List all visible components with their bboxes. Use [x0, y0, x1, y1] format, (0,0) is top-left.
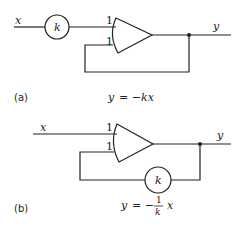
equation-lhs: y — [107, 91, 115, 104]
feedback-wire-left — [80, 152, 145, 180]
amplifier-symbol — [112, 18, 152, 53]
diagram-b: x 1 1 y k (b) y = − 1 k x — [14, 121, 231, 217]
amplifier-symbol — [113, 124, 153, 162]
gain-block-label: k — [155, 174, 162, 187]
amp-input-gain-bottom: 1 — [106, 140, 113, 153]
caption-a: (a) — [14, 92, 28, 103]
equation-lhs: y — [120, 199, 128, 212]
feedback-wire-right — [171, 144, 200, 180]
fraction-numerator: 1 — [156, 195, 162, 205]
amp-input-gain-top: 1 — [106, 121, 113, 134]
circuit-diagrams: x k 1 1 y (a) y = − kx x 1 1 y k (b) — [0, 0, 247, 227]
fraction-denominator: k — [155, 207, 160, 217]
equation-equals: = − — [119, 91, 141, 104]
equation-rhs: x — [167, 199, 174, 212]
gain-block-label: k — [54, 21, 61, 34]
diagram-a: x k 1 1 y (a) y = − kx — [14, 14, 231, 104]
amp-input-gain-bottom: 1 — [106, 35, 113, 48]
equation-a: y = − kx — [107, 91, 155, 104]
equation-b: y = − 1 k x — [120, 195, 174, 217]
equation-rhs: kx — [141, 91, 155, 104]
output-label-y: y — [212, 20, 220, 33]
output-label-y: y — [216, 129, 224, 142]
feedback-wire — [85, 35, 189, 72]
amp-input-gain-top: 1 — [106, 14, 113, 27]
input-label-x: x — [15, 14, 22, 27]
caption-b: (b) — [14, 203, 28, 214]
equation-equals: = − — [132, 199, 154, 212]
input-label-x: x — [40, 121, 47, 134]
